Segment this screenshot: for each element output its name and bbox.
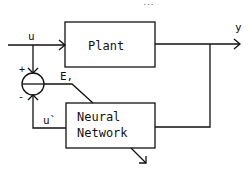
error-signal-line xyxy=(44,84,93,103)
feedback-line xyxy=(155,44,210,127)
plant-label: Plant xyxy=(88,39,124,53)
output-signal-line xyxy=(155,39,240,49)
output-label-y: y xyxy=(235,21,242,34)
adaptation-arrow xyxy=(131,148,146,163)
page-mark: ... xyxy=(143,0,154,6)
plant-block: Plant xyxy=(65,22,155,67)
plus-sign: + xyxy=(19,64,25,75)
nn-label-line1: Neural xyxy=(77,110,120,124)
neural-network-block: Neural Network xyxy=(66,103,155,148)
nn-label-line2: Network xyxy=(77,126,128,140)
summing-junction xyxy=(22,73,44,95)
block-diagram: ... Plant Neural Network u + - E, u` xyxy=(0,0,249,174)
error-label: E, xyxy=(60,70,73,83)
input-signal-line xyxy=(8,40,65,50)
input-label-u: u xyxy=(28,30,35,43)
minus-sign: - xyxy=(18,91,24,102)
u-branch-line xyxy=(28,45,38,73)
nn-output-label: u` xyxy=(43,114,56,127)
